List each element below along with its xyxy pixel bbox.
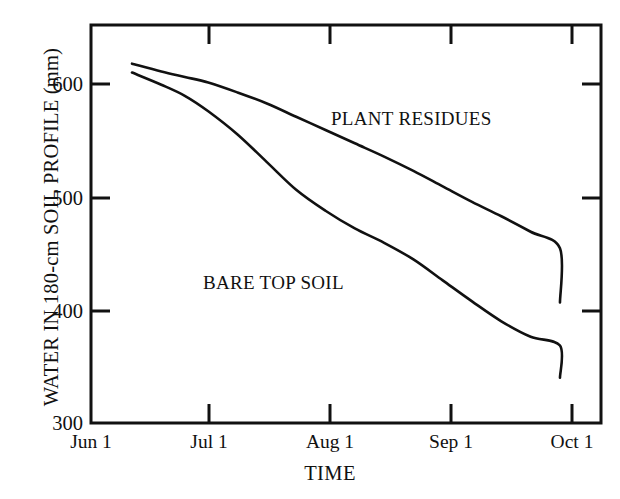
x-axis-ticks-top (209, 25, 572, 44)
y-axis-ticks (91, 84, 110, 311)
series-label-bare-top-soil: BARE TOP SOIL (203, 272, 344, 294)
x-tick-label-jun-1: Jun 1 (46, 432, 136, 452)
y-tick-label-500: 500 (27, 188, 83, 208)
y-tick-label-600: 600 (27, 74, 83, 94)
y-tick-label-400: 400 (27, 301, 83, 321)
y-tick-label-300: 300 (27, 413, 83, 433)
x-tick-label-aug-1: Aug 1 (285, 432, 375, 452)
y-axis-ticks-right (582, 84, 601, 311)
series-label-plant-residues: PLANT RESIDUES (331, 108, 492, 130)
x-tick-label-jul-1: Jul 1 (164, 432, 254, 452)
x-axis-ticks (209, 404, 572, 423)
chart-figure: WATER IN 180-cm SOIL PROFILE (mm) 600 50… (0, 0, 620, 499)
line-plant-residues (132, 64, 562, 303)
x-axis-title: TIME (240, 462, 420, 485)
x-tick-label-oct-1: Oct 1 (527, 432, 617, 452)
x-tick-label-sep-1: Sep 1 (406, 432, 496, 452)
plot-area (0, 0, 620, 499)
